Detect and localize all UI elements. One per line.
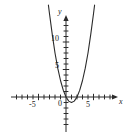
x-axis-arrow-icon	[112, 94, 118, 99]
y-axis	[63, 15, 69, 132]
y-tick-label-5: 5	[55, 62, 59, 70]
graph-canvas	[0, 0, 133, 138]
y-tick-label-10: 10	[51, 35, 59, 43]
x-tick-label-5: 5	[86, 101, 90, 109]
x-tick-label-0: 0	[58, 100, 62, 108]
y-axis-arrow-icon	[63, 15, 68, 21]
x-axis	[11, 94, 118, 100]
x-axis-label: x	[119, 98, 123, 106]
parabola-graph: 10 5 0 -5 5 y x	[0, 0, 133, 138]
x-tick-label-neg5: -5	[29, 101, 36, 109]
parabola-curve	[48, 5, 94, 103]
y-axis-label: y	[58, 8, 62, 16]
